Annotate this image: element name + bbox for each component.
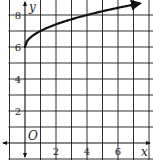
y-tick-label: 2: [15, 106, 21, 117]
y-axis-label: y: [28, 0, 36, 14]
origin-label: O: [28, 129, 38, 143]
y-tick-label: 4: [15, 74, 21, 85]
graph: 2462468 x y O: [0, 0, 153, 160]
y-tick-label: 6: [15, 42, 21, 53]
x-tick-label: 6: [115, 146, 121, 157]
y-tick-label: 8: [15, 10, 21, 21]
x-axis-label: x: [141, 145, 148, 159]
series-line: [25, 3, 140, 47]
x-tick-label: 4: [84, 146, 90, 157]
axes: [3, 2, 150, 157]
x-tick-label: 2: [53, 146, 59, 157]
series-group: [25, 3, 140, 47]
